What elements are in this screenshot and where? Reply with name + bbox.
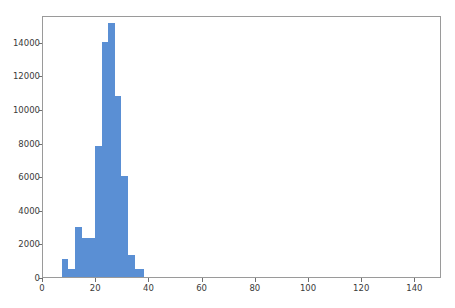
x-tick-label: 20 (75, 284, 115, 293)
x-tick-mark (202, 278, 203, 282)
x-tick-label: 100 (288, 284, 328, 293)
histogram-figure: 02000400060008000100001200014000 0204060… (0, 0, 455, 308)
histogram-bar (62, 259, 69, 277)
y-tick-label: 12000 (0, 72, 40, 81)
x-tick-mark (361, 278, 362, 282)
histogram-bar (108, 23, 115, 277)
y-tick-label: 14000 (0, 39, 40, 48)
histogram-bar (82, 238, 89, 277)
y-tick-label: 4000 (0, 207, 40, 216)
x-tick-mark (95, 278, 96, 282)
y-tick-label: 8000 (0, 140, 40, 149)
histogram-bars (43, 17, 440, 277)
histogram-bar (135, 269, 144, 277)
x-tick-mark (148, 278, 149, 282)
histogram-bar (95, 146, 102, 277)
x-tick-label: 60 (182, 284, 222, 293)
histogram-bar (121, 176, 128, 277)
x-tick-label: 120 (341, 284, 381, 293)
y-tick-label: 2000 (0, 240, 40, 249)
histogram-bar (75, 227, 82, 277)
x-tick-label: 80 (235, 284, 275, 293)
x-tick-label: 40 (128, 284, 168, 293)
x-tick-label: 140 (394, 284, 434, 293)
x-tick-mark (414, 278, 415, 282)
histogram-bar (68, 269, 75, 277)
x-tick-mark (255, 278, 256, 282)
plot-area (42, 16, 441, 278)
y-tick-label: 0 (0, 274, 40, 283)
histogram-bar (102, 42, 109, 277)
y-tick-label: 6000 (0, 173, 40, 182)
histogram-bar (115, 96, 122, 277)
histogram-bar (88, 238, 95, 277)
x-tick-label: 0 (22, 284, 62, 293)
x-tick-mark (308, 278, 309, 282)
y-tick-label: 10000 (0, 106, 40, 115)
histogram-bar (128, 255, 135, 277)
x-tick-mark (42, 278, 43, 282)
